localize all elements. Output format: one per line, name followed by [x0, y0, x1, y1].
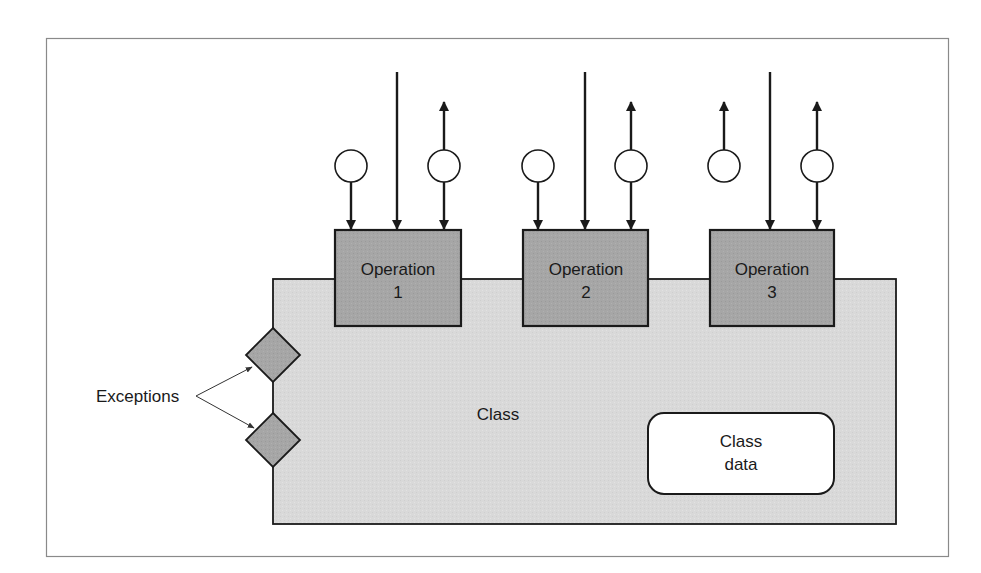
- parameter-inout-circle-icon: [615, 150, 647, 182]
- parameter-inout-circle-icon: [801, 150, 833, 182]
- parameter-in-circle-icon: [522, 150, 554, 182]
- operation-1-name: Operation: [361, 260, 436, 279]
- operation-1-number: 1: [393, 283, 402, 302]
- exceptions-label: Exceptions: [96, 387, 179, 406]
- operation-3: Operation 3: [708, 72, 834, 326]
- operation-2-number: 2: [581, 283, 590, 302]
- class-data-line2: data: [724, 455, 758, 474]
- operation-2: Operation 2: [522, 72, 648, 326]
- class-diagram: Class Class data Operation 1 Operation 2: [0, 0, 981, 573]
- exception-pointer-arrow-icon: [196, 396, 254, 428]
- operation-2-name: Operation: [549, 260, 624, 279]
- operation-3-name: Operation: [735, 260, 810, 279]
- class-data-line1: Class: [720, 432, 763, 451]
- exception-pointer-arrow-icon: [196, 367, 252, 396]
- class-label: Class: [477, 405, 520, 424]
- class-data-box: Class data: [648, 413, 834, 494]
- parameter-out-circle-icon: [708, 150, 740, 182]
- parameter-inout-circle-icon: [428, 150, 460, 182]
- operation-3-number: 3: [767, 283, 776, 302]
- operation-1: Operation 1: [335, 72, 461, 326]
- parameter-in-circle-icon: [335, 150, 367, 182]
